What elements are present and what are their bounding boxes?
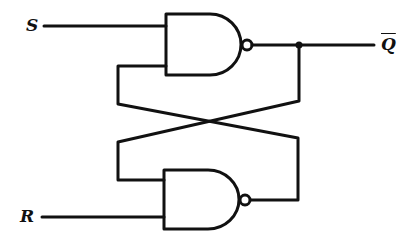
- bottom-gate-bubble: [240, 195, 250, 205]
- junction-dot: [296, 42, 303, 49]
- q-bar-label: Q: [381, 36, 396, 53]
- top-nand-gate: [166, 14, 241, 75]
- s-label: S: [26, 17, 38, 34]
- bottom-nand-gate: [164, 170, 239, 229]
- sr-latch-diagram: S R Q: [0, 0, 420, 247]
- circuit: [0, 0, 420, 247]
- r-label: R: [20, 208, 34, 225]
